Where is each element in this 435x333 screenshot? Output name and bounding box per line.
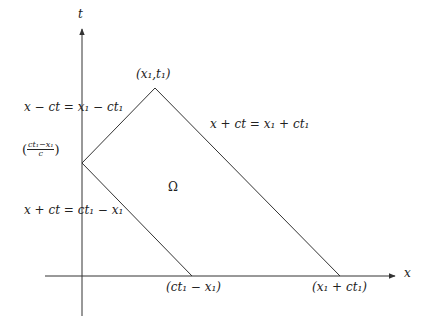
paren-close: )	[54, 142, 59, 157]
x-axis-label: x	[404, 267, 411, 279]
t-axis-label: t	[78, 8, 83, 20]
equation-upper-right: x + ct = x₁ + ct₁	[210, 118, 309, 130]
region-omega-label: Ω	[168, 181, 178, 193]
apex-label: (x₁,t₁)	[136, 68, 170, 80]
t-intercept-label: (ct₁−x₁c)	[22, 141, 59, 159]
equation-upper-left: x − ct = x₁ − ct₁	[24, 101, 123, 113]
fraction: ct₁−x₁c	[27, 141, 54, 159]
equation-lower-left: x + ct = ct₁ − x₁	[24, 204, 123, 216]
fraction-denominator: c	[39, 150, 43, 158]
x-intercept-right-label: (x₁ + ct₁)	[312, 281, 367, 293]
x-intercept-left-label: (ct₁ − x₁)	[166, 281, 221, 293]
